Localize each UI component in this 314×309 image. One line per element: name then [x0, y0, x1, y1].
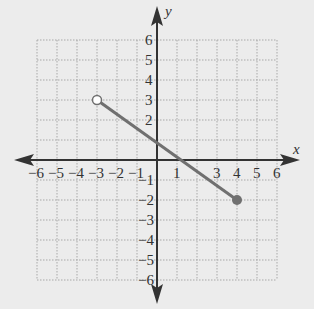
y-tick-label: −2 [138, 192, 154, 208]
y-tick-label: 4 [145, 72, 153, 88]
y-tick-label: 5 [145, 52, 153, 68]
x-tick-label: −4 [68, 165, 84, 181]
y-tick-label: −4 [138, 232, 154, 248]
y-axis-label: y [163, 3, 172, 19]
y-tick-label: 3 [145, 92, 153, 108]
x-tick-label: 5 [253, 165, 261, 181]
closed-endpoint-icon [232, 195, 242, 205]
data-series [93, 96, 243, 206]
x-tick-label: −2 [108, 165, 124, 181]
coordinate-plane: −6−5−4−3−2−11345665432−1−2−3−4−5−6 x y [0, 0, 314, 309]
x-tick-label: −6 [28, 165, 44, 181]
x-tick-label: 1 [173, 165, 181, 181]
y-tick-label: −1 [138, 172, 154, 188]
x-tick-label: 6 [273, 165, 281, 181]
y-tick-label: −6 [138, 272, 154, 288]
x-tick-label: −5 [48, 165, 64, 181]
y-tick-label: −3 [138, 212, 154, 228]
x-tick-label: 4 [233, 165, 241, 181]
y-tick-label: −5 [138, 252, 154, 268]
y-tick-label: 6 [145, 32, 153, 48]
y-tick-label: 2 [145, 112, 153, 128]
x-tick-label: −3 [88, 165, 104, 181]
x-tick-label: 3 [213, 165, 221, 181]
open-endpoint-icon [93, 96, 102, 105]
line-segment [97, 100, 237, 200]
x-axis-label: x [292, 141, 300, 157]
